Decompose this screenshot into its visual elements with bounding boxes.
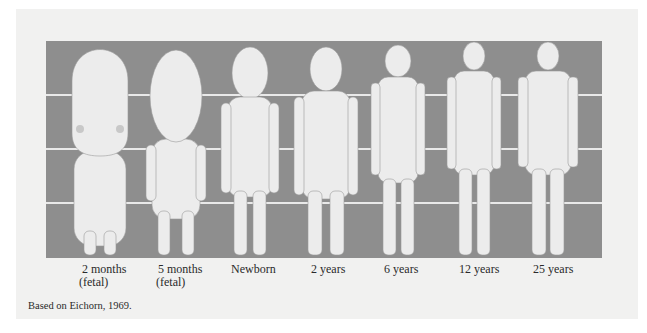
source-caption: Based on Eichorn, 1969. xyxy=(28,300,132,311)
label-line2: (fetal) xyxy=(79,276,126,289)
label-12-years: 12 years xyxy=(459,263,499,276)
label-5-months: 5 months (fetal) xyxy=(158,263,202,289)
label-line1: Newborn xyxy=(231,263,276,276)
label-newborn: Newborn xyxy=(231,263,276,276)
label-2-months: 2 months (fetal) xyxy=(82,263,126,289)
label-line1: 6 years xyxy=(384,263,418,276)
label-line2: (fetal) xyxy=(156,276,202,289)
body-silhouettes xyxy=(46,41,602,258)
label-6-years: 6 years xyxy=(384,263,418,276)
label-line1: 12 years xyxy=(459,263,499,276)
figure-5-months xyxy=(146,50,206,255)
figure-25-years xyxy=(518,42,578,255)
label-25-years: 25 years xyxy=(533,263,573,276)
label-line1: 25 years xyxy=(533,263,573,276)
figure-newborn xyxy=(221,47,279,255)
figure-panel xyxy=(46,41,602,258)
figure-2-months xyxy=(72,50,128,256)
figure-6-years xyxy=(371,45,425,255)
label-line1: 2 years xyxy=(311,263,345,276)
figure-12-years xyxy=(447,42,501,255)
label-2-years: 2 years xyxy=(311,263,345,276)
figure-2-years xyxy=(294,47,358,255)
